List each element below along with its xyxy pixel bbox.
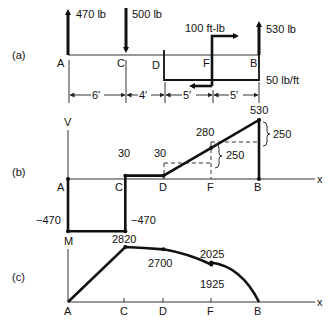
delta-fb-label: 250	[273, 128, 291, 140]
panel-a-loading: (a) 470 lb 500 lb 50 lb/ft 100 ft-lb 530…	[12, 8, 299, 103]
shear-c-top-label: 30	[118, 147, 130, 159]
panel-b-label: (b)	[12, 166, 25, 178]
point-b-label: B	[250, 57, 257, 69]
shear-f-label: 280	[196, 126, 214, 138]
moment-point-c: C	[120, 305, 128, 317]
m-axis-label: M	[64, 235, 73, 247]
shear-point-6	[257, 118, 261, 122]
dimension-fb: 5′	[230, 89, 238, 101]
beam-diagram: (a) 470 lb 500 lb 50 lb/ft 100 ft-lb 530…	[0, 0, 334, 322]
reaction-b-label: 530 lb	[266, 23, 296, 35]
moment-point-dot-0	[123, 245, 127, 249]
dimension-cd: 4′	[139, 89, 147, 101]
distributed-load-label: 50 lb/ft	[266, 74, 299, 86]
moment-point-d: D	[159, 305, 167, 317]
v-axis-label: V	[64, 116, 72, 128]
brace-fb	[263, 122, 270, 146]
shear-point-4	[162, 174, 166, 178]
moment-point-dot-3	[209, 261, 213, 265]
delta-df-label: 250	[226, 149, 244, 161]
v-x-axis-label: x	[317, 173, 323, 185]
shear-c-bottom-label: −470	[131, 214, 156, 226]
panel-a-label: (a)	[12, 49, 25, 61]
shear-point-a: A	[57, 181, 65, 193]
point-d-label: D	[152, 59, 160, 71]
moment-curve	[68, 247, 259, 302]
panel-c-moment: (c) M x 2820 2700 2025 1925 A C D F B	[12, 233, 323, 317]
shear-point-3	[123, 174, 127, 178]
moment-f-label: 100 ft-lb	[185, 22, 225, 34]
dimension-ac: 6′	[92, 89, 100, 101]
load-c-label: 500 lb	[132, 8, 162, 20]
shear-b-label: 530	[250, 104, 268, 116]
shear-point-f: F	[207, 181, 214, 193]
moment-f-upper-arm	[212, 36, 236, 86]
point-f-label: F	[203, 57, 210, 69]
m-x-axis-label: x	[317, 296, 323, 308]
moment-d-label: 2700	[148, 257, 172, 269]
reaction-a-label: 470 lb	[76, 8, 106, 20]
panel-b-shear: (b) V x 250 250 30 30 280 530 −470 −470 …	[12, 104, 323, 233]
point-a-label: A	[57, 57, 65, 69]
moment-f-high-label: 2025	[200, 248, 224, 260]
m-axis-ticks	[124, 298, 211, 302]
moment-point-dot-1	[162, 247, 166, 251]
brace-df	[215, 144, 222, 168]
moment-point-b: B	[254, 305, 261, 317]
dimension-df: 5′	[183, 89, 191, 101]
moment-point-a: A	[64, 305, 72, 317]
moment-point-f: F	[207, 305, 214, 317]
shear-point-c: C	[115, 181, 123, 193]
shear-point-5	[209, 146, 213, 150]
shear-a-bottom-label: −470	[36, 214, 61, 226]
moment-c-label: 2820	[112, 233, 136, 245]
shear-point-d: D	[159, 181, 167, 193]
shear-point-b: B	[254, 181, 261, 193]
shear-d-label: 30	[154, 147, 166, 159]
shear-point-1	[66, 229, 70, 233]
moment-f-low-label: 1925	[200, 278, 224, 290]
panel-c-label: (c)	[12, 271, 25, 283]
shear-point-0	[66, 177, 70, 181]
point-c-label: C	[117, 57, 125, 69]
